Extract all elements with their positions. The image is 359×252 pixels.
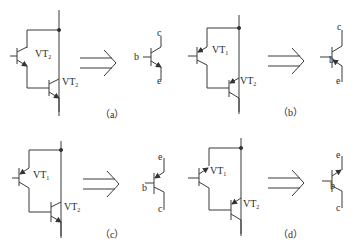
upper-transistor-label-c: VT1 [33, 170, 49, 183]
terminal-top-b: c [337, 22, 341, 32]
junction-dot [57, 28, 60, 31]
terminal-base-a: b [134, 52, 139, 62]
terminal-base-c: b [142, 183, 147, 193]
caption-c: （c） [100, 230, 124, 240]
caption-d: （d） [278, 230, 303, 240]
terminal-bottom-b: e [336, 76, 340, 86]
upper-transistor-label-a: VT2 [35, 49, 51, 62]
terminal-top-d: e [336, 150, 340, 160]
terminal-top-c: e [158, 152, 162, 162]
upper-transistor-label-b: VT1 [212, 45, 228, 58]
lower-transistor-label-c: VT2 [64, 202, 80, 215]
terminal-base-d: b [330, 181, 335, 191]
caption-b: （b） [278, 108, 303, 118]
lower-transistor-label-d: VT2 [243, 199, 259, 212]
lower-transistor-label-b: VT2 [240, 76, 256, 89]
panel-d-circuit [188, 138, 342, 236]
terminal-bottom-a: e [157, 76, 161, 86]
terminal-base-b: b [329, 55, 334, 65]
panel-a-circuit [10, 10, 161, 116]
terminal-top-a: c [157, 28, 161, 38]
panel-b-circuit [188, 15, 342, 114]
terminal-bottom-c: c [158, 204, 162, 214]
lower-transistor-label-a: VT2 [62, 77, 78, 90]
upper-transistor-label-d: VT1 [210, 166, 226, 179]
caption-a: （a） [100, 110, 124, 120]
diagram-canvas [0, 0, 359, 252]
terminal-bottom-d: c [336, 203, 340, 213]
